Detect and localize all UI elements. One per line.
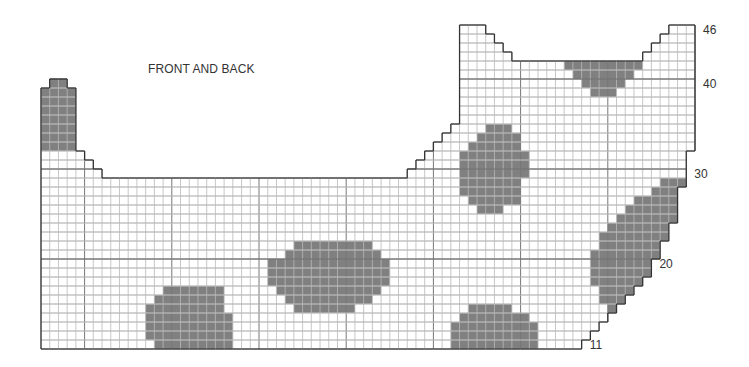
spot-right-edge <box>599 295 625 304</box>
spot-neck <box>582 79 626 88</box>
spot-right-edge <box>590 268 651 277</box>
spot-right-edge <box>660 178 686 187</box>
spot-center <box>285 250 381 259</box>
spot-bottom-left <box>146 304 224 313</box>
spot-bottom-left <box>154 340 232 349</box>
spot-upper-middle <box>460 187 521 196</box>
spot-upper-middle <box>477 205 503 214</box>
spot-upper-middle <box>486 124 512 133</box>
spot-right-edge <box>608 223 669 232</box>
row-label-20: 20 <box>659 257 672 271</box>
spot-right-edge <box>651 187 677 196</box>
row-label-11: 11 <box>590 338 602 352</box>
row-label-30: 30 <box>694 167 707 181</box>
spot-neck <box>564 61 642 70</box>
row-label-40: 40 <box>703 77 716 91</box>
spot-right-edge <box>590 259 651 268</box>
row-label-46: 46 <box>703 23 716 37</box>
spot-upper-middle <box>460 178 521 187</box>
spot-right-edge <box>608 304 617 313</box>
spot-center <box>294 241 372 250</box>
knitting-chart-grid <box>0 0 749 367</box>
spot-bottom-right <box>468 304 512 313</box>
spot-right-edge <box>634 196 678 205</box>
spot-neck <box>590 88 616 97</box>
spot-neck <box>573 70 634 79</box>
spot-right-edge <box>617 214 678 223</box>
spot-upper-middle <box>477 133 521 142</box>
